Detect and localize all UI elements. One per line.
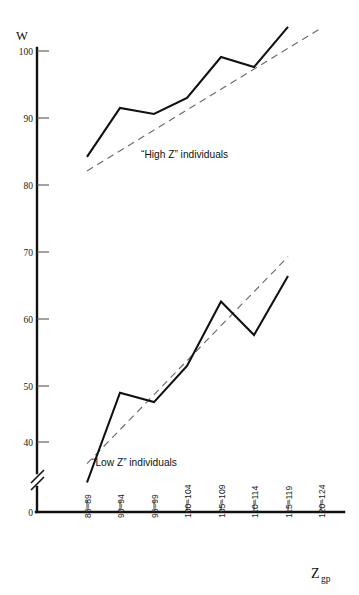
y-tick-label-90: 90 — [24, 114, 34, 124]
x-axis-title-subscript: gp — [321, 574, 331, 584]
y-tick-label-80: 80 — [24, 181, 34, 191]
x-tick-label-5: 110–114 — [250, 486, 260, 518]
y-tick-label-70: 70 — [24, 248, 34, 258]
x-tick-label-2: 95–99 — [150, 494, 160, 518]
low-z-series-label: “Low Z” individuals — [92, 457, 177, 468]
x-axis-title: Z — [311, 566, 320, 581]
high-z-series-line — [87, 27, 288, 157]
y-axis-title: W — [16, 29, 28, 43]
x-tick-label-7: 120–124 — [317, 484, 327, 518]
chart-figure: 100 90 80 70 60 50 40 0 W 85–89 90–94 95… — [0, 0, 359, 595]
x-tick-label-6: 115–119 — [284, 486, 294, 518]
x-tick-label-1: 90–94 — [116, 494, 126, 518]
x-tick-label-3: 100–104 — [183, 484, 193, 518]
x-tick-label-0: 85–89 — [83, 494, 93, 518]
y-tick-label-60: 60 — [24, 315, 34, 325]
y-tick-label-50: 50 — [24, 382, 34, 392]
y-tick-label-100: 100 — [19, 47, 34, 57]
low-z-series-line — [87, 276, 288, 482]
x-tick-label-4: 105–109 — [217, 484, 227, 518]
y-tick-label-40: 40 — [24, 438, 34, 448]
chart-plot-area: 100 90 80 70 60 50 40 0 W 85–89 90–94 95… — [0, 0, 359, 595]
high-z-series-label: “High Z” individuals — [141, 149, 228, 160]
low-z-trend-line — [87, 257, 288, 464]
y-origin-label: 0 — [28, 508, 33, 518]
